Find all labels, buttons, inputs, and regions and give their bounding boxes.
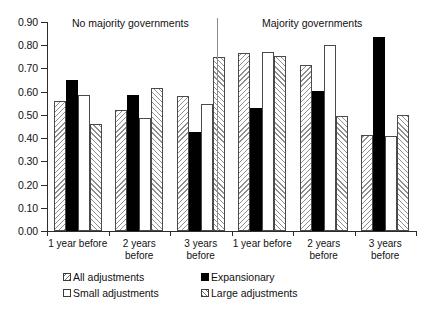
- bar-exp: [373, 37, 385, 231]
- x-tick-label: 3 years before: [346, 238, 426, 261]
- bar-all: [361, 135, 373, 231]
- legend-item: Large adjustments: [201, 287, 373, 299]
- bar-small: [78, 95, 90, 231]
- bar-small: [324, 45, 336, 231]
- legend-label: Expansionary: [211, 271, 275, 283]
- bar-large: [151, 88, 163, 231]
- bar-exp: [66, 80, 78, 231]
- bar-exp: [250, 108, 262, 231]
- bar-small: [385, 136, 397, 231]
- y-tick-label: 0.10: [0, 203, 38, 213]
- legend-item: Expansionary: [201, 271, 373, 283]
- bar-all: [115, 110, 127, 231]
- legend-swatch-icon: [63, 273, 71, 281]
- bar-large: [213, 57, 225, 231]
- legend-item: Small adjustments: [63, 287, 201, 299]
- x-tick: [170, 231, 171, 236]
- x-tick: [416, 231, 417, 236]
- bar-all: [300, 65, 312, 231]
- legend-label: Small adjustments: [73, 287, 159, 299]
- y-tick-label: 0.60: [0, 87, 38, 97]
- legend-swatch-icon: [63, 289, 71, 297]
- bar-large: [336, 116, 348, 231]
- legend-item: All adjustments: [63, 271, 201, 283]
- y-tick-label: 0.30: [0, 156, 38, 166]
- legend-label: Large adjustments: [211, 287, 297, 299]
- bar-large: [90, 124, 102, 231]
- bar-exp: [312, 91, 324, 231]
- panel-divider: [217, 18, 218, 231]
- x-tick: [47, 231, 48, 236]
- legend-label: All adjustments: [73, 271, 144, 283]
- bar-small: [139, 118, 151, 231]
- x-tick: [232, 231, 233, 236]
- legend-swatch-icon: [201, 273, 209, 281]
- bar-small: [262, 52, 274, 231]
- bar-large: [274, 56, 286, 231]
- y-tick-label: 0.90: [0, 17, 38, 27]
- bar-large: [397, 115, 409, 231]
- bar-small: [201, 104, 213, 231]
- y-tick-label: 0.50: [0, 110, 38, 120]
- bar-chart: 0.900.800.700.600.500.400.300.200.100.00…: [0, 0, 436, 313]
- y-tick-label: 0.00: [0, 226, 38, 236]
- bar-exp: [127, 95, 139, 231]
- bar-all: [238, 53, 250, 231]
- plot-area: [47, 22, 416, 231]
- bar-all: [54, 101, 66, 231]
- y-tick-label: 0.70: [0, 63, 38, 73]
- x-tick: [355, 231, 356, 236]
- x-tick: [293, 231, 294, 236]
- bar-exp: [189, 132, 201, 231]
- bar-all: [177, 96, 189, 231]
- legend-swatch-icon: [201, 289, 209, 297]
- chart-legend: All adjustmentsExpansionarySmall adjustm…: [63, 271, 373, 299]
- y-tick-label: 0.80: [0, 40, 38, 50]
- y-tick-label: 0.20: [0, 180, 38, 190]
- y-tick-label: 0.40: [0, 133, 38, 143]
- x-tick: [109, 231, 110, 236]
